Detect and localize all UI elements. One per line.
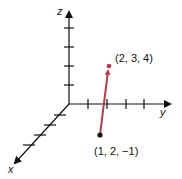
coordinate-diagram [0,0,182,179]
z-axis [64,12,74,104]
x-axis [15,104,69,163]
y-axis-label: y [160,106,166,118]
x-axis-label: x [8,163,14,175]
vector-end-point [107,64,112,69]
z-axis-label: z [57,5,63,17]
vector-arrow [97,64,111,138]
vector-start-point [97,132,102,137]
y-axis [69,99,170,109]
vector-end-label: (2, 3, 4) [115,52,153,64]
vector-start-label: (1, 2, −1) [94,145,138,157]
